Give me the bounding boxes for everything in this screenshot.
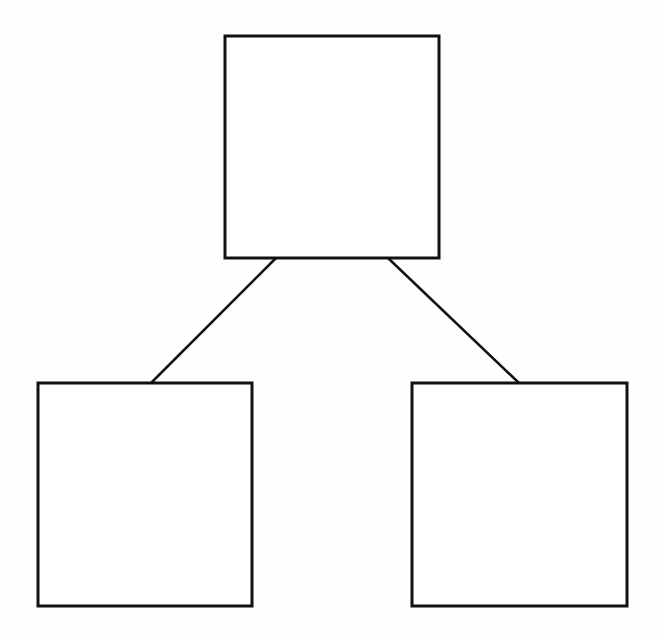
tree-diagram xyxy=(0,0,659,641)
nodes-group xyxy=(38,36,627,606)
node-left xyxy=(38,383,252,606)
node-box-right xyxy=(412,383,627,606)
diagram-canvas xyxy=(0,0,659,641)
edges-group xyxy=(151,258,519,383)
node-box-root xyxy=(225,36,439,258)
node-box-left xyxy=(38,383,252,606)
node-root xyxy=(225,36,439,258)
edge-root-to-right xyxy=(388,258,519,383)
edge-root-to-left xyxy=(151,258,276,383)
node-right xyxy=(412,383,627,606)
